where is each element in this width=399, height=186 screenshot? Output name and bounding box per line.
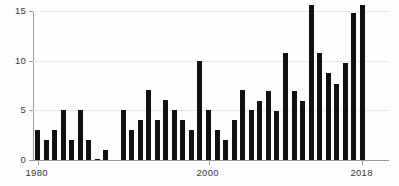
bar [240, 90, 245, 160]
x-tick-label-2000: 2000 [197, 167, 219, 178]
bar [334, 84, 339, 160]
bar [300, 101, 305, 160]
bar [360, 5, 365, 160]
bar [86, 140, 91, 160]
bar [232, 120, 237, 160]
bar [103, 150, 108, 160]
bar [257, 101, 262, 160]
bar [292, 91, 297, 160]
bar [78, 110, 83, 160]
y-tick-label-5: 5 [6, 105, 26, 115]
bar [180, 120, 185, 160]
x-axis-line [33, 160, 389, 161]
bar [223, 140, 228, 160]
bar [343, 63, 348, 160]
bar [69, 140, 74, 160]
bar [155, 120, 160, 160]
bar-chart: 051015 198020002018 [0, 0, 399, 186]
bar [146, 90, 151, 160]
bar [121, 110, 126, 160]
x-tick-label-2018: 2018 [350, 167, 372, 178]
bar [163, 100, 168, 160]
x-tick-mark-2000 [209, 161, 210, 165]
bar [351, 13, 356, 160]
bar [317, 53, 322, 160]
bar [189, 130, 194, 160]
y-tick-label-0: 0 [6, 155, 26, 165]
bar [206, 110, 211, 160]
x-tick-label-1980: 1980 [26, 167, 48, 178]
bar [283, 53, 288, 160]
bar [129, 130, 134, 160]
bar [61, 110, 66, 160]
bar [44, 140, 49, 160]
bars-container [33, 8, 389, 160]
bar [326, 73, 331, 160]
bar [52, 130, 57, 160]
bar [266, 91, 271, 160]
y-tick-mark-0 [29, 160, 33, 161]
bar [309, 5, 314, 160]
bar [274, 111, 279, 160]
bar [197, 61, 202, 160]
bar [172, 110, 177, 160]
bar [249, 110, 254, 160]
bar [35, 130, 40, 160]
y-tick-label-15: 15 [6, 6, 26, 16]
bar [138, 120, 143, 160]
y-tick-label-10: 10 [6, 56, 26, 66]
bar [215, 130, 220, 160]
bar [95, 159, 100, 160]
x-tick-mark-1980 [38, 161, 39, 165]
x-tick-mark-2018 [362, 161, 363, 165]
